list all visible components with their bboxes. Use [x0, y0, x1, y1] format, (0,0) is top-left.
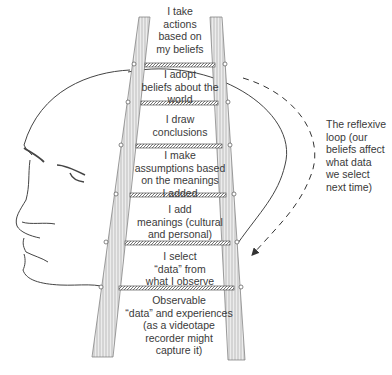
ladder-step-select-data: I select “data” from what I observe — [125, 250, 235, 288]
reflexive-loop-arrow-icon — [243, 78, 315, 253]
ladder-step-observable-data: Observable “data” and experiences (as a … — [118, 294, 240, 357]
ladder-step-beliefs: I adopt beliefs about the world — [140, 68, 220, 106]
ladder-step-meanings: I add meanings (cultural and personal) — [128, 203, 232, 241]
ladder-step-actions: I take actions based on my beliefs — [150, 5, 210, 55]
ladder-step-conclusions: I draw conclusions — [140, 113, 220, 138]
ladder-step-assumptions: I make assumptions based on the meanings… — [130, 149, 230, 199]
reflexive-loop-label: The reflexive loop (our beliefs affect w… — [326, 118, 392, 193]
ladder-of-inference-diagram: I take actions based on my beliefs I ado… — [0, 0, 392, 375]
